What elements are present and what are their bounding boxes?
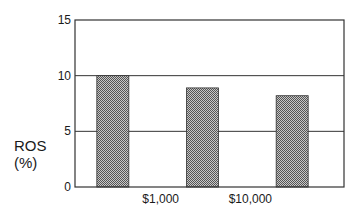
x-axis-ticks: $1,000$10,000 [142,192,272,206]
bars [97,76,308,187]
bar-chart: 051015 $1,000$10,000 [0,0,359,215]
y-tick-label: 10 [58,69,72,83]
bar [187,88,219,187]
x-tick-label: $10,000 [229,192,273,206]
bar [97,76,129,187]
y-tick-label: 5 [64,124,71,138]
y-axis-ticks: 051015 [58,13,72,194]
x-tick-label: $1,000 [142,192,179,206]
y-tick-label: 0 [64,180,71,194]
bar [276,96,308,187]
y-tick-label: 15 [58,13,72,27]
